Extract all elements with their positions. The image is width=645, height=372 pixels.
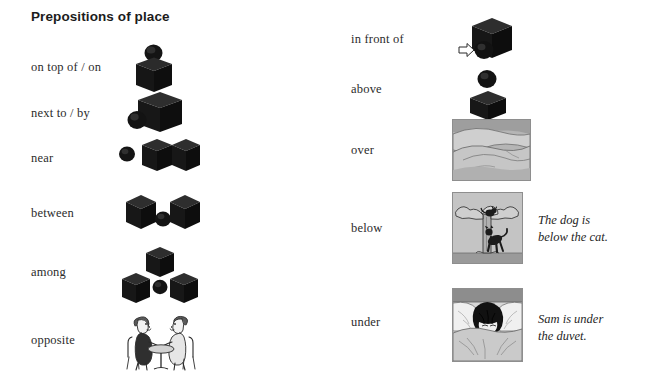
panel-boy-under-duvet <box>452 288 523 362</box>
prepositions-of-place-page: Prepositions of place on top of / on nex… <box>0 0 645 372</box>
figure-sphere-in-front-of-cube <box>458 14 528 66</box>
row-label-near: near <box>31 151 53 166</box>
figure-sphere-on-top-of-cube <box>128 42 188 94</box>
row-label-above: above <box>351 82 382 97</box>
row-label-between: between <box>31 206 74 221</box>
row-label-on-top-of: on top of / on <box>31 60 101 75</box>
row-label-over: over <box>351 143 374 158</box>
row-label-below: below <box>351 221 383 236</box>
row-label-under: under <box>351 315 380 330</box>
caption-below: The dog is below the cat. <box>538 212 608 245</box>
row-label-in-front-of: in front of <box>351 32 404 47</box>
figure-two-people-facing-across-table <box>116 313 198 371</box>
panel-duvet-over-bed <box>452 119 531 181</box>
caption-under: Sam is under the duvet. <box>538 311 603 344</box>
direction-arrow-icon <box>459 44 474 57</box>
page-title: Prepositions of place <box>31 9 170 24</box>
row-label-next-to: next to / by <box>31 106 90 121</box>
panel-dog-below-cat <box>452 192 523 264</box>
figure-sphere-between-two-cubes <box>124 190 202 234</box>
row-label-opposite: opposite <box>31 333 75 348</box>
figure-sphere-near-two-cubes <box>118 133 200 177</box>
figure-sphere-above-cube <box>462 68 520 120</box>
row-label-among: among <box>31 265 66 280</box>
figure-sphere-among-three-cubes <box>116 245 204 309</box>
